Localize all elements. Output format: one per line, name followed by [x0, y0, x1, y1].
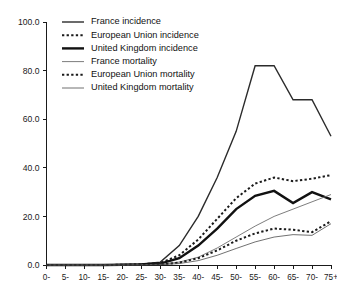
x-tick-label: 20- [116, 273, 128, 282]
legend-label-4: European Union mortality [91, 69, 195, 79]
x-tick-label: 15- [97, 273, 109, 282]
x-tick-label: 40- [192, 273, 204, 282]
x-tick-label: 5- [62, 273, 70, 282]
y-tick-label: 100.0 [18, 17, 40, 27]
y-tick-label: 0.0 [28, 260, 40, 270]
y-tick-label: 40.0 [23, 163, 40, 173]
legend-label-3: France mortality [91, 56, 157, 66]
x-tick-label: 70- [306, 273, 318, 282]
y-tick-label: 20.0 [23, 212, 40, 222]
x-tick-label: 30- [154, 273, 166, 282]
legend-label-0: France incidence [91, 16, 161, 26]
x-tick-label: 65- [287, 273, 299, 282]
x-tick-label: 60- [268, 273, 280, 282]
line-chart: 0.020.040.060.080.0100.0 0-5-10-15-20-25… [0, 0, 337, 297]
legend-label-1: European Union incidence [91, 30, 199, 40]
x-tick-label: 50- [230, 273, 242, 282]
x-tick-label: 10- [79, 273, 91, 282]
chart-container: 0.020.040.060.080.0100.0 0-5-10-15-20-25… [0, 0, 337, 297]
x-tick-label: 25- [135, 273, 147, 282]
x-tick-label: 45- [211, 273, 223, 282]
legend-label-2: United Kingdom incidence [91, 43, 198, 53]
y-tick-label: 60.0 [23, 114, 40, 124]
x-tick-label: 75+ [324, 273, 337, 282]
x-tick-label: 35- [173, 273, 185, 282]
legend-label-5: United Kingdom mortality [91, 82, 194, 92]
y-tick-label: 80.0 [23, 66, 40, 76]
x-tick-label: 55- [249, 273, 261, 282]
x-tick-label: 0- [43, 273, 51, 282]
